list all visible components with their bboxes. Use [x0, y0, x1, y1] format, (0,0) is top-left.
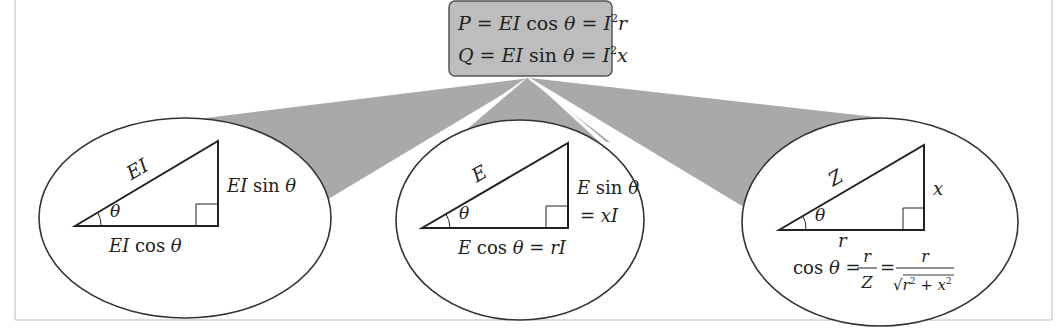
base-label: r: [838, 230, 848, 251]
svg-text:cos θ =: cos θ =: [793, 257, 861, 278]
vertical-label: E sin θ: [576, 177, 639, 198]
angle-label: θ: [815, 205, 825, 225]
ellipse-power: [39, 118, 331, 318]
angle-label: θ: [110, 201, 120, 221]
svg-text:Z: Z: [860, 273, 873, 292]
vertical-eq-label: = xI: [580, 205, 619, 226]
svg-text:=: =: [880, 257, 895, 278]
angle-label: θ: [459, 203, 469, 223]
vertical-label: EI sin θ: [226, 175, 296, 196]
ellipse-impedance: [742, 118, 1018, 326]
base-label: E cos θ = rI: [457, 237, 567, 258]
formula-line-q: Q = EI sin θ = I2x: [458, 44, 628, 66]
svg-text:√r2 + x2: √r2 + x2: [893, 276, 952, 294]
formula-line-p: P = EI cos θ = I2r: [457, 12, 629, 34]
power-triangles-diagram: P = EI cos θ = I2r Q = EI sin θ = I2x θ …: [0, 0, 1057, 333]
svg-text:r: r: [921, 247, 930, 266]
vertical-label: x: [933, 178, 943, 199]
svg-text:r: r: [863, 247, 872, 266]
base-label: EI cos θ: [108, 235, 182, 256]
